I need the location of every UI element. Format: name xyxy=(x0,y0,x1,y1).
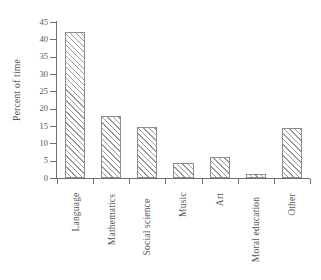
x-axis-label-text: Mathematics xyxy=(106,194,116,245)
bar-chart-figure: Percent of time 051015202530354045 Langu… xyxy=(0,0,321,280)
y-axis-tick xyxy=(50,74,56,75)
bar-mathematics xyxy=(101,116,121,178)
x-axis-tick xyxy=(238,179,239,184)
bar-music xyxy=(173,163,193,178)
y-axis-tick xyxy=(50,143,56,144)
x-axis-label-text: Other xyxy=(287,193,297,216)
x-axis-label: Other xyxy=(252,186,321,200)
y-axis-title-text: Percent of time xyxy=(12,59,22,121)
x-axis-label-text: Moral education xyxy=(251,197,261,263)
y-axis-tick-label: 0 xyxy=(28,174,48,183)
x-axis-tick xyxy=(274,179,275,184)
x-axis-tick xyxy=(93,179,94,184)
bar-social-science xyxy=(137,127,157,178)
y-axis-tick-label: 30 xyxy=(28,70,48,79)
y-axis-tick xyxy=(50,161,56,162)
x-axis-tick xyxy=(57,179,58,184)
y-axis-tick xyxy=(50,109,56,110)
bar-language xyxy=(65,32,85,178)
bar-moral-education xyxy=(246,174,266,179)
y-axis-tick xyxy=(50,22,56,23)
y-axis-tick xyxy=(50,126,56,127)
plot-area xyxy=(57,22,310,178)
y-axis-tick-label: 35 xyxy=(28,52,48,61)
x-axis-tick xyxy=(310,179,311,184)
y-axis-tick-label: 25 xyxy=(28,87,48,96)
x-axis-label-text: Social science xyxy=(142,199,152,256)
x-axis-tick xyxy=(202,179,203,184)
x-axis-tick xyxy=(129,179,130,184)
y-axis-tick-label: 45 xyxy=(28,18,48,27)
y-axis-tick xyxy=(50,57,56,58)
y-axis-tick-label: 20 xyxy=(28,104,48,113)
y-axis-tick-label: 15 xyxy=(28,122,48,131)
y-axis-tick xyxy=(50,91,56,92)
y-axis-tick-label: 40 xyxy=(28,35,48,44)
y-axis-tick xyxy=(50,178,56,179)
x-axis-tick xyxy=(165,179,166,184)
y-axis-tick-label: 10 xyxy=(28,139,48,148)
y-axis-tick-label: 5 xyxy=(28,156,48,165)
bar-other xyxy=(282,128,302,178)
bar-art xyxy=(210,157,230,178)
y-axis-tick xyxy=(50,39,56,40)
